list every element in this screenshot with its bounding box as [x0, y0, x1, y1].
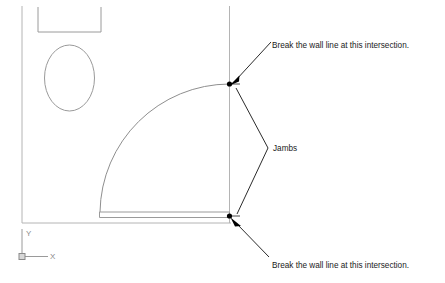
jambs-label-text: Jambs — [273, 144, 297, 153]
bottom-leader-arrowhead — [231, 218, 242, 227]
ucs-origin-box — [19, 254, 25, 260]
toilet-tank — [38, 7, 101, 32]
cad-drawing-canvas[interactable]: Break the wall line at this intersection… — [0, 0, 445, 283]
ucs-x-label: X — [50, 252, 56, 261]
toilet-bowl — [45, 45, 95, 111]
door-swing-arc — [100, 84, 230, 212]
top-leader-line — [236, 42, 271, 80]
bottom-jamb-node[interactable] — [227, 213, 232, 218]
top-annotation-text: Break the wall line at this intersection… — [272, 41, 409, 50]
bottom-leader-line — [237, 224, 269, 257]
bottom-annotation-text: Break the wall line at this intersection… — [272, 261, 409, 270]
ucs-y-label: Y — [26, 229, 32, 238]
door-panel — [100, 212, 230, 218]
jambs-leader-line — [236, 88, 268, 214]
